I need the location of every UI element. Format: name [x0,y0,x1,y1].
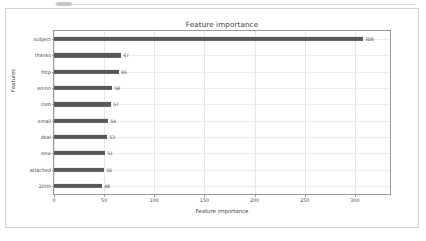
bar[interactable] [54,167,104,171]
bar[interactable] [54,135,107,139]
y-axis-tick-label: deal [41,134,51,139]
x-axis-tick-label: 50 [101,198,107,203]
x-axis-tick-label: 200 [250,198,259,203]
bar[interactable] [54,86,112,90]
x-axis-tick-label: 300 [350,198,359,203]
bar-value-label: 53 [107,134,115,139]
y-axis-tick-label: com [41,102,51,107]
y-axis-tick-label: thanks [35,53,51,58]
bar-row: 51new [54,145,390,161]
bar-row: 67thanks [54,47,390,63]
x-axis-tick [255,194,256,197]
y-axis-tick-label: email [38,118,51,123]
bar[interactable] [54,37,363,41]
bar-row: 308subject [54,31,390,47]
x-axis-tick-label: 100 [150,198,159,203]
bar[interactable] [54,151,105,155]
chart-title: Feature importance [53,20,391,29]
bar-value-label: 48 [102,183,110,188]
x-axis-tick-label: 250 [300,198,309,203]
y-axis-tick [52,88,54,89]
y-axis-label: Features [10,69,16,92]
x-axis-tick [305,194,306,197]
bar-row: 50attached [54,161,390,177]
bar-value-label: 51 [105,151,113,156]
x-axis-tick-label: 0 [52,198,55,203]
bar[interactable] [54,102,111,106]
x-axis-tick [54,194,55,197]
y-axis-tick [52,153,54,154]
bar-row: 53deal [54,129,390,145]
y-axis-tick [52,104,54,105]
x-axis-label: Feature importance [53,208,391,214]
y-axis-tick-label: http [41,69,51,74]
bar-value-label: 65 [119,69,127,74]
bar-row: 58enron [54,80,390,96]
y-axis-tick-label: new [41,151,51,156]
y-axis-tick-label: enron [37,86,51,91]
y-axis-tick [52,170,54,171]
bar[interactable] [54,184,102,188]
bar[interactable] [54,119,108,123]
x-axis-tick [154,194,155,197]
bar-row: 57com [54,96,390,112]
y-axis-tick [52,39,54,40]
bar-value-label: 50 [104,167,112,172]
bar-value-label: 308 [363,37,374,42]
y-axis-tick-label: 2000 [39,183,51,188]
y-axis-tick [52,186,54,187]
bar-value-label: 54 [108,118,116,123]
y-axis-tick-label: attached [30,167,51,172]
bar-value-label: 57 [111,102,119,107]
bar[interactable] [54,70,119,74]
bar-row: 65http [54,64,390,80]
bar-row: 482000 [54,178,390,194]
y-axis-tick [52,137,54,138]
feature-importance-figure: Feature importance 050100150200250300308… [0,0,426,241]
bar-value-label: 58 [112,86,120,91]
x-axis-tick [355,194,356,197]
bar[interactable] [54,53,121,57]
x-axis-tick-label: 150 [200,198,209,203]
y-axis-tick [52,72,54,73]
plot-area: 050100150200250300308subject67thanks65ht… [53,30,391,195]
y-axis-tick [52,55,54,56]
y-axis-tick-label: subject [34,37,51,42]
x-axis-tick [204,194,205,197]
bar-row: 54email [54,113,390,129]
y-axis-tick [52,121,54,122]
bar-value-label: 67 [121,53,129,58]
x-axis-tick [104,194,105,197]
